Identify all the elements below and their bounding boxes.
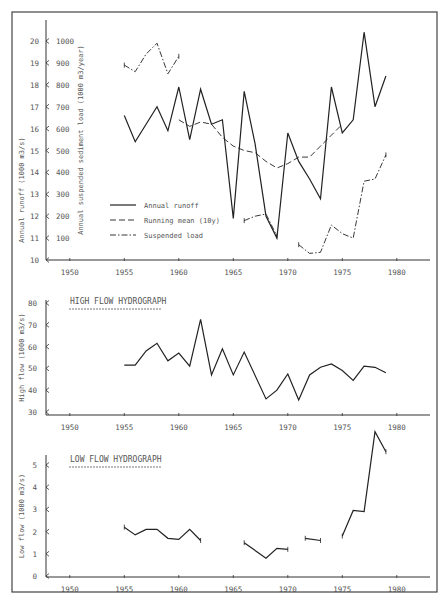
- x-tick-label: 1980: [388, 268, 407, 277]
- y-tick-label: 16: [30, 125, 40, 134]
- y2-tick-label: 200: [56, 212, 70, 221]
- x-tick-label: 1960: [170, 585, 189, 594]
- y2-tick-label: 800: [56, 81, 70, 90]
- y-axis-label: High flow (1000 m3/s): [18, 313, 26, 402]
- y-tick-label: 11: [30, 234, 39, 243]
- x-tick-label: 1975: [333, 268, 351, 277]
- legend-label: Annual runoff: [144, 202, 199, 210]
- y-tick-label: 60: [28, 343, 38, 352]
- y-tick-label: 0: [32, 572, 37, 581]
- x-tick-label: 1970: [279, 423, 298, 432]
- y-tick-label: 13: [30, 190, 39, 199]
- y2-tick-label: 1000: [56, 37, 75, 46]
- y-tick-label: 30: [28, 408, 38, 417]
- y2-tick-label: 900: [56, 59, 70, 68]
- y-tick-label: 20: [30, 37, 40, 46]
- x-tick-label: 1980: [388, 585, 407, 594]
- x-tick-label: 1950: [61, 268, 80, 277]
- x-tick-label: 1975: [333, 585, 351, 594]
- y-tick-label: 3: [32, 505, 37, 514]
- x-tick-label: 1965: [224, 268, 242, 277]
- x-tick-label: 1955: [115, 268, 133, 277]
- x-tick-label: 1965: [224, 423, 242, 432]
- x-tick-label: 1970: [279, 268, 298, 277]
- y-axis-label: Low flow (1000 m3/s): [18, 474, 26, 558]
- y2-tick-label: 600: [56, 125, 70, 134]
- y2-axis-label: Annual suspended sediment load (1000 m3/…: [77, 45, 85, 235]
- y2-tick-label: 300: [56, 190, 70, 199]
- y-tick-label: 5: [32, 461, 37, 470]
- y-tick-label: 80: [28, 299, 38, 308]
- x-tick-label: 1970: [279, 585, 298, 594]
- y-tick-label: 14: [30, 168, 40, 177]
- y-tick-label: 19: [30, 59, 39, 68]
- x-tick-label: 1955: [115, 585, 133, 594]
- x-tick-label: 1975: [333, 423, 351, 432]
- y2-tick-label: 500: [56, 147, 70, 156]
- y2-tick-label: 400: [56, 168, 70, 177]
- y-tick-label: 12: [30, 212, 39, 221]
- y-tick-label: 17: [30, 103, 39, 112]
- y-tick-label: 2: [32, 528, 37, 537]
- y-tick-label: 1: [32, 550, 37, 559]
- y2-tick-label: 100: [56, 234, 70, 243]
- hydrograph-figure: 1950195519601965197019751980101112131415…: [0, 0, 448, 605]
- x-tick-label: 1960: [170, 268, 189, 277]
- x-tick-label: 1955: [115, 423, 133, 432]
- y-tick-label: 10: [30, 256, 40, 265]
- panel-title: HIGH FLOW HYDROGRAPH: [70, 297, 167, 306]
- x-tick-label: 1965: [224, 585, 242, 594]
- y-tick-label: 18: [30, 81, 40, 90]
- x-tick-label: 1960: [170, 423, 189, 432]
- panel-title: LOW FLOW HYDROGRAPH: [70, 455, 162, 464]
- y2-tick-label: 700: [56, 103, 70, 112]
- y-tick-label: 40: [28, 386, 38, 395]
- x-tick-label: 1950: [61, 423, 80, 432]
- y-tick-label: 50: [28, 364, 38, 373]
- x-tick-label: 1980: [388, 423, 407, 432]
- x-tick-label: 1950: [61, 585, 80, 594]
- y-tick-label: 4: [32, 483, 37, 492]
- legend-label: Suspended load: [144, 232, 203, 240]
- y-tick-label: 15: [30, 147, 39, 156]
- y-tick-label: 70: [28, 321, 38, 330]
- legend-label: Running mean (10y): [144, 217, 220, 225]
- y-axis-label: Annual runoff (1000 m3/s): [18, 137, 26, 242]
